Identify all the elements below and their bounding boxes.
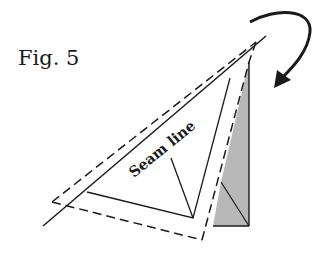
diagram-canvas: Fig. 5 Seam line [0, 0, 321, 254]
seam-line-label: Seam line [125, 117, 198, 181]
curved-arrow-icon [250, 13, 310, 88]
folded-flap [213, 62, 249, 226]
figure-title: Fig. 5 [18, 46, 79, 70]
